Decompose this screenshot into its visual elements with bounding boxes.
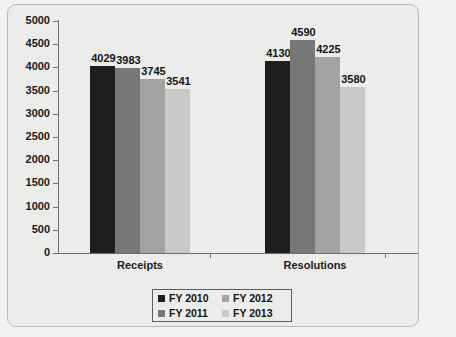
y-axis-tick-label: 500 (4, 224, 50, 235)
y-axis-tick-label: 4500 (4, 38, 50, 49)
y-axis-tick-label: 3500 (4, 85, 50, 96)
legend-swatch-icon (158, 295, 165, 302)
y-axis-tick-label: 1500 (4, 177, 50, 188)
chart-legend: FY 2010FY 2012FY 2011FY 2013 (152, 289, 292, 322)
bar-fy-2012-resolutions[interactable] (315, 57, 340, 253)
bar-value-label: 3541 (164, 76, 193, 87)
bar-value-label: 3983 (114, 55, 143, 66)
bar-fy-2011-receipts[interactable] (115, 68, 140, 253)
legend-swatch-icon (222, 295, 229, 302)
x-axis-category-label-resolutions: Resolutions (265, 259, 365, 272)
y-axis-tick-label: 0 (4, 247, 50, 258)
bar-value-label: 3580 (339, 74, 368, 85)
y-axis-tick-label: 2500 (4, 131, 50, 142)
x-axis-line (58, 253, 418, 254)
x-axis-category-label-receipts: Receipts (90, 259, 190, 272)
legend-label: FY 2011 (169, 308, 208, 319)
bar-value-label: 4130 (264, 48, 293, 59)
plot-area: 40293983374535414130459042253580 (58, 21, 418, 253)
bar-fy-2010-resolutions[interactable] (265, 61, 290, 253)
bar-fy-2011-resolutions[interactable] (290, 40, 315, 253)
legend-item-fy-2011[interactable]: FY 2011 (158, 306, 222, 321)
legend-item-fy-2012[interactable]: FY 2012 (222, 291, 286, 306)
x-axis-tick-mark (385, 253, 386, 258)
legend-item-fy-2013[interactable]: FY 2013 (222, 306, 286, 321)
bar-fy-2013-resolutions[interactable] (340, 87, 365, 253)
y-axis-tick-label: 5000 (4, 15, 50, 26)
chart-screenshot: 5000450040003500300025002000150010005000… (0, 0, 456, 337)
x-axis-tick-mark (210, 253, 211, 258)
bar-value-label: 4225 (314, 44, 343, 55)
y-axis-tick-label: 3000 (4, 108, 50, 119)
legend-item-fy-2010[interactable]: FY 2010 (158, 291, 222, 306)
bar-value-label: 4590 (289, 27, 318, 38)
bar-fy-2012-receipts[interactable] (140, 79, 165, 253)
legend-label: FY 2010 (169, 293, 209, 304)
bar-fy-2010-receipts[interactable] (90, 66, 115, 253)
y-axis-tick-label: 2000 (4, 154, 50, 165)
legend-swatch-icon (158, 310, 165, 317)
y-axis-tick-label: 1000 (4, 201, 50, 212)
legend-label: FY 2012 (233, 293, 273, 304)
y-axis-tick-labels: 5000450040003500300025002000150010005000 (0, 0, 50, 337)
legend-label: FY 2013 (233, 308, 273, 319)
legend-swatch-icon (222, 310, 229, 317)
y-axis-tick-label: 4000 (4, 61, 50, 72)
bar-fy-2013-receipts[interactable] (165, 89, 190, 253)
